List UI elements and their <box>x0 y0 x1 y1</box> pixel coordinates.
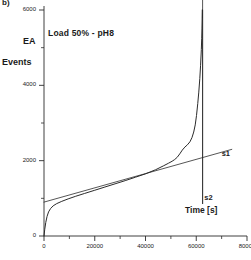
y-tick-label: 2000 <box>2 157 36 163</box>
annotation-s1: s1 <box>222 149 230 158</box>
x-tick-label: 20000 <box>75 243 115 249</box>
cumulative-ae-events <box>44 10 202 236</box>
x-axis-label: Time [s] <box>185 205 217 215</box>
figure-panel: b) Load 50% - pH8 EA Events Time [s] 020… <box>0 0 251 260</box>
y-axis-label-line1: EA <box>23 36 36 46</box>
x-tick-label: 0 <box>24 243 64 249</box>
y-tick-label: 6000 <box>2 6 36 12</box>
y-tick-label: 4000 <box>2 81 36 87</box>
x-tick-label: 40000 <box>126 243 166 249</box>
plot-area <box>0 0 251 260</box>
y-tick-label: 0 <box>2 232 36 238</box>
x-tick-label: 60000 <box>176 243 216 249</box>
annotation-s2: s2 <box>204 193 212 202</box>
chart-title: Load 50% - pH8 <box>48 28 114 38</box>
x-tick-label: 80000 <box>227 243 251 249</box>
y-axis-label-line2: Events <box>2 57 32 67</box>
